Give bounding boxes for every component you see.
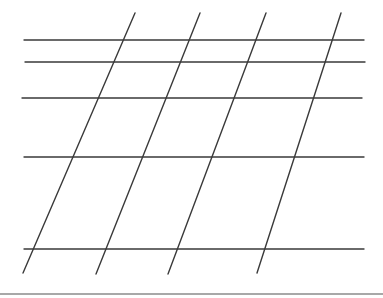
line-grid-diagram bbox=[0, 0, 383, 298]
slanted-line-4 bbox=[257, 13, 341, 273]
slanted-line-2 bbox=[96, 13, 200, 274]
slanted-line-1 bbox=[23, 13, 135, 273]
slanted-line-3 bbox=[168, 13, 266, 274]
bottom-divider bbox=[0, 293, 383, 295]
